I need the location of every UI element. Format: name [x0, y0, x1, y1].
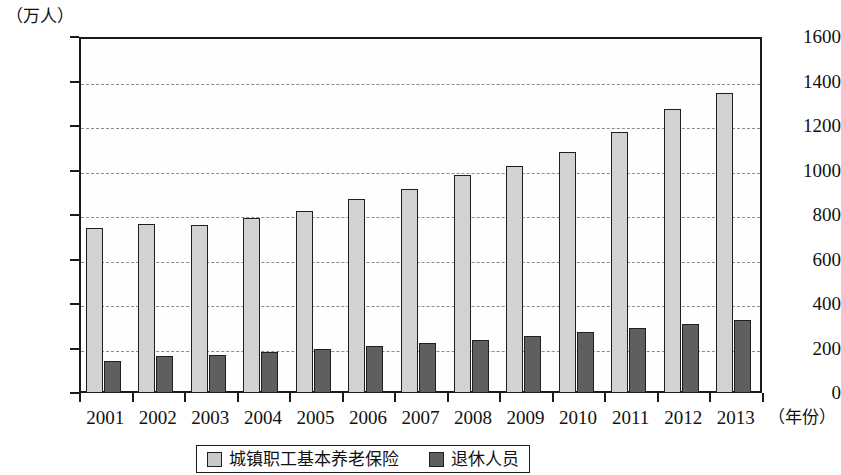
bar-series-1 [664, 109, 681, 393]
bar-series-2 [734, 320, 751, 393]
x-axis-tick-label: 2013 [701, 406, 771, 430]
y-axis-tick-label: 400 [779, 294, 841, 313]
x-axis-title: （年份） [768, 404, 836, 430]
bar-series-2 [629, 328, 646, 393]
bars-layer [79, 37, 762, 393]
x-axis-tick [342, 393, 344, 402]
legend-item-series-1: 城镇职工基本养老保险 [207, 450, 399, 468]
bar-series-1 [138, 224, 155, 393]
bar-series-2 [682, 324, 699, 393]
bar-series-1 [86, 228, 103, 393]
bar-series-1 [611, 132, 628, 393]
bar-series-2 [577, 332, 594, 393]
bar-series-1 [454, 175, 471, 393]
legend-label-series-2: 退休人员 [451, 450, 519, 468]
y-axis-unit-label: （万人） [6, 2, 74, 27]
y-axis-tick [70, 125, 79, 127]
x-axis-tick [394, 393, 396, 402]
bar-series-1 [506, 166, 523, 393]
bar-series-2 [156, 356, 173, 393]
bar-series-1 [191, 225, 208, 393]
x-axis-tick [447, 393, 449, 402]
legend-item-series-2: 退休人员 [429, 450, 519, 468]
y-axis-tick-label: 1200 [779, 116, 841, 135]
y-axis-tick-label: 600 [779, 250, 841, 269]
y-axis-tick [70, 81, 79, 83]
x-axis-tick [184, 393, 186, 402]
bar-chart-figure: （万人） 02004006008001000120014001600 20012… [0, 0, 841, 475]
bar-group [709, 37, 762, 393]
y-axis-tick [70, 170, 79, 172]
bar-group [237, 37, 290, 393]
y-axis-tick-label: 0 [779, 383, 841, 402]
x-axis-tick [657, 393, 659, 402]
bar-group [604, 37, 657, 393]
x-axis-tick [132, 393, 134, 402]
bar-group [79, 37, 132, 393]
bar-series-2 [472, 340, 489, 393]
bar-group [552, 37, 605, 393]
bar-series-2 [366, 346, 383, 393]
x-axis-labels: 2001200220032004200520062007200820092010… [0, 406, 841, 434]
bar-series-2 [314, 349, 331, 393]
x-axis-tick [499, 393, 501, 402]
x-axis-tick [289, 393, 291, 402]
bar-series-2 [209, 355, 226, 393]
x-axis-tick [79, 393, 81, 402]
y-axis-tick [70, 259, 79, 261]
bar-series-2 [104, 361, 121, 393]
bar-series-1 [716, 93, 733, 393]
bar-series-1 [348, 199, 365, 393]
bar-group [184, 37, 237, 393]
y-axis-tick [70, 348, 79, 350]
y-axis-tick-label: 200 [779, 339, 841, 358]
y-axis-tick [70, 36, 79, 38]
y-axis-tick [70, 303, 79, 305]
legend-swatch-icon-series-1 [207, 452, 222, 467]
bar-series-1 [243, 218, 260, 393]
x-axis-tick [237, 393, 239, 402]
y-axis-tick [70, 392, 79, 394]
bar-group [394, 37, 447, 393]
bar-series-1 [401, 189, 418, 393]
legend-swatch-icon-series-2 [429, 452, 444, 467]
bar-group [657, 37, 710, 393]
bar-series-2 [261, 352, 278, 393]
bar-group [342, 37, 395, 393]
y-axis-tick-label: 1000 [779, 161, 841, 180]
chart-legend: 城镇职工基本养老保险 退休人员 [196, 445, 530, 473]
bar-series-2 [524, 336, 541, 393]
x-axis-tick [604, 393, 606, 402]
y-axis-tick [70, 214, 79, 216]
bar-series-2 [419, 343, 436, 393]
x-axis-tick [552, 393, 554, 402]
y-axis-tick-label: 1400 [779, 72, 841, 91]
y-axis-tick-label: 800 [779, 205, 841, 224]
x-axis-ticks [79, 393, 762, 403]
x-axis-tick [762, 393, 764, 402]
legend-label-series-1: 城镇职工基本养老保险 [229, 450, 399, 468]
bar-group [447, 37, 500, 393]
bar-series-1 [296, 211, 313, 393]
bar-group [289, 37, 342, 393]
bar-series-1 [559, 152, 576, 393]
bar-group [499, 37, 552, 393]
x-axis-tick [709, 393, 711, 402]
bar-group [132, 37, 185, 393]
y-axis-tick-label: 1600 [779, 27, 841, 46]
